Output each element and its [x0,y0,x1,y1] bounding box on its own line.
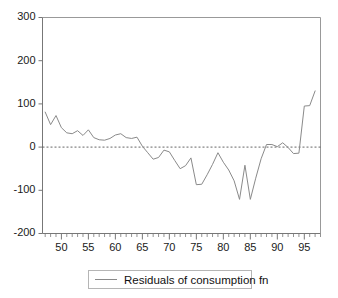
y-tick-label: -100 [13,183,35,195]
x-tick-label: 85 [244,241,256,253]
residuals-line-chart: 3002001000-100-20050556065707580859095 [0,0,338,298]
x-tick-label: 75 [190,241,202,253]
y-tick-label: 0 [29,140,35,152]
y-tick-label: 300 [17,10,35,22]
x-tick-label: 70 [163,241,175,253]
data-series-line [45,91,315,199]
x-tick-label: 80 [217,241,229,253]
y-tick-label: 200 [17,54,35,66]
x-tick-label: 60 [109,241,121,253]
plot-axes [43,18,321,234]
y-tick-label: -200 [13,226,35,238]
chart-legend: Residuals of consumption fn [88,270,252,289]
legend-line-swatch [95,279,117,280]
x-tick-label: 95 [298,241,310,253]
y-tick-label: 100 [17,97,35,109]
x-tick-label: 55 [82,241,94,253]
x-tick-label: 90 [271,241,283,253]
chart-figure: 3002001000-100-20050556065707580859095 R… [0,0,338,298]
x-tick-label: 65 [136,241,148,253]
plot-frame [43,18,321,234]
legend-label: Residuals of consumption fn [124,274,268,286]
x-tick-label: 50 [55,241,67,253]
